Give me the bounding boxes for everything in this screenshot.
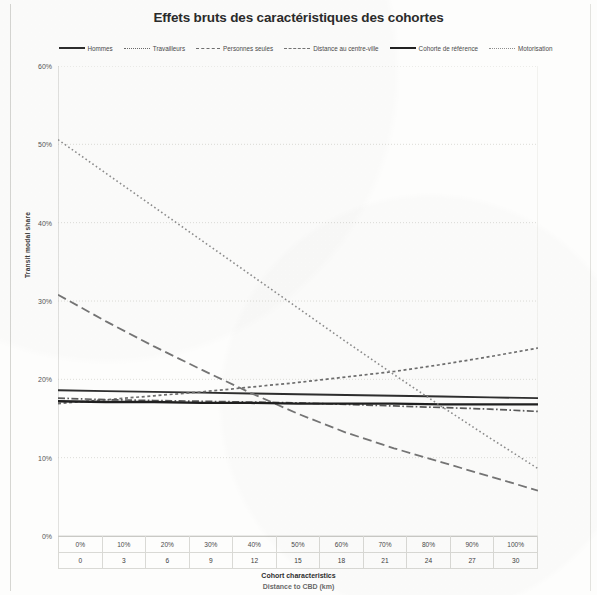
x-axis-distance-cell: 12 — [233, 553, 277, 569]
series-line-cohorte-de-r-f-rence — [58, 401, 538, 404]
x-axis-distance-cell: 0 — [59, 553, 103, 569]
legend-label: Hommes — [88, 45, 113, 52]
legend-swatch-line-icon — [284, 48, 310, 49]
legend-label: Personnes seules — [223, 45, 273, 52]
x-axis-percent-cell: 60% — [320, 537, 364, 553]
x-axis-distance-cell: 9 — [189, 553, 233, 569]
series-line-distance-au-centre-ville — [58, 295, 538, 491]
x-axis-distance-cell: 27 — [450, 553, 494, 569]
series-line-travailleurs — [58, 348, 538, 404]
x-axis-percent-cell: 50% — [276, 537, 320, 553]
legend-item-motorisation[interactable]: Motorisation — [489, 45, 552, 52]
legend-item-cohorte-reference[interactable]: Cohorte de référence — [390, 45, 479, 52]
x-axis-percent-cell: 30% — [189, 537, 233, 553]
x-axis-percent-cell: 20% — [146, 537, 190, 553]
y-axis-tick-label: 50% — [18, 141, 52, 148]
x-axis-title-sub: Distance to CBD (km) — [0, 581, 597, 592]
legend-item-hommes[interactable]: Hommes — [59, 45, 113, 52]
x-axis-percent-cell: 40% — [233, 537, 277, 553]
x-axis-percent-cell: 80% — [407, 537, 451, 553]
x-axis-percent-cell: 0% — [59, 537, 103, 553]
chart-legend: Hommes Travailleurs Personnes seules Dis… — [28, 40, 583, 56]
x-axis-distance-cell: 15 — [276, 553, 320, 569]
legend-label: Travailleurs — [153, 45, 185, 52]
x-axis-title-main: Cohort characteristics — [261, 572, 335, 579]
x-axis-distance-cell: 18 — [320, 553, 364, 569]
x-axis-distance-cell: 24 — [407, 553, 451, 569]
x-axis-distance-cell: 30 — [494, 553, 538, 569]
plot-area — [58, 66, 538, 536]
chart-canvas — [58, 66, 538, 536]
chart-title: Effets bruts des caractéristiques des co… — [0, 10, 597, 25]
series-line-hommes — [58, 390, 538, 398]
x-axis-distance-row: 036912151821242730 — [59, 553, 538, 569]
x-axis-distance-cell: 6 — [146, 553, 190, 569]
legend-label: Distance au centre-ville — [313, 45, 378, 52]
x-axis-percent-row: 0%10%20%30%40%50%60%70%80%90%100% — [59, 537, 538, 553]
x-axis-percent-cell: 10% — [102, 537, 146, 553]
x-axis-table: 0%10%20%30%40%50%60%70%80%90%100% 036912… — [58, 536, 538, 569]
legend-label: Cohorte de référence — [419, 45, 479, 52]
series-line-motorisation — [58, 140, 538, 469]
x-axis-percent-cell: 90% — [450, 537, 494, 553]
legend-item-travailleurs[interactable]: Travailleurs — [124, 45, 185, 52]
y-axis-tick-label: 10% — [18, 454, 52, 461]
legend-label: Motorisation — [518, 45, 552, 52]
y-axis-tick-label: 60% — [18, 63, 52, 70]
legend-swatch-line-icon — [489, 48, 515, 49]
scanned-page: Effets bruts des caractéristiques des co… — [0, 0, 597, 595]
legend-item-personnes-seules[interactable]: Personnes seules — [196, 45, 273, 52]
legend-item-distance-centre-ville[interactable]: Distance au centre-ville — [284, 45, 378, 52]
x-axis-title: Cohort characteristics Distance to CBD (… — [0, 570, 597, 592]
legend-swatch-line-icon — [124, 48, 150, 49]
x-axis-percent-cell: 100% — [494, 537, 538, 553]
y-axis-tick-label: 20% — [18, 376, 52, 383]
y-axis-tick-label: 0% — [18, 533, 52, 540]
y-axis-tick-label: 30% — [18, 298, 52, 305]
x-axis-percent-cell: 70% — [363, 537, 407, 553]
x-axis-distance-cell: 3 — [102, 553, 146, 569]
legend-swatch-line-icon — [390, 47, 416, 49]
x-axis-distance-cell: 21 — [363, 553, 407, 569]
y-axis-ticks: 0%10%20%30%40%50%60% — [0, 66, 58, 536]
legend-swatch-line-icon — [196, 48, 220, 49]
y-axis-tick-label: 40% — [18, 219, 52, 226]
legend-swatch-line-icon — [59, 47, 85, 49]
